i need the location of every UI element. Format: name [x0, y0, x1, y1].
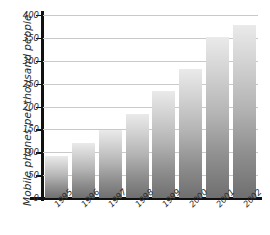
plot-area: 050100150200250300350400 — [43, 15, 258, 198]
y-tick-label: 250 — [23, 79, 39, 89]
y-tick-label: 200 — [23, 102, 39, 112]
x-axis-labels-group: 19951996199719981999200020012002 — [43, 200, 258, 235]
bar — [206, 37, 229, 198]
bar — [179, 69, 202, 198]
y-tick-label: 350 — [23, 33, 39, 43]
y-tick-label: 0 — [34, 193, 39, 203]
bar — [233, 25, 256, 198]
y-tick-label: 300 — [23, 56, 39, 66]
y-tick-label: 100 — [23, 147, 39, 157]
bar-chart: Mobile phones per thousand people 050100… — [0, 0, 270, 235]
bar — [152, 91, 175, 199]
y-tick-label: 50 — [28, 170, 39, 180]
bar — [126, 114, 149, 198]
bars-group — [43, 15, 258, 198]
y-tick-label: 150 — [23, 124, 39, 134]
y-tick-label: 400 — [23, 10, 39, 20]
